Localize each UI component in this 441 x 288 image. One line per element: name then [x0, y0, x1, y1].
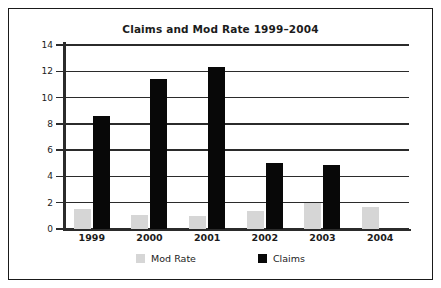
x-axis-tick-label: 1999: [79, 232, 105, 243]
legend-item-mod-rate: Mod Rate: [136, 253, 196, 264]
x-axis-tick-label: 2002: [252, 232, 278, 243]
bar-mod-rate-2000: [131, 215, 148, 229]
y-axis-tick-label: 10: [23, 93, 53, 103]
y-axis-tick: [56, 202, 63, 203]
bar-group: [178, 45, 236, 229]
x-axis-tick-label: 2004: [367, 232, 393, 243]
chart-title: Claims and Mod Rate 1999–2004: [9, 23, 432, 35]
x-axis-line: [63, 229, 411, 231]
y-axis-tick-label: 14: [23, 40, 53, 50]
legend-swatch-claims-icon: [258, 254, 267, 263]
y-axis-tick: [56, 228, 63, 229]
y-axis-tick-label: 12: [23, 66, 53, 76]
y-axis-tick: [56, 44, 63, 45]
x-axis-tick-label: 2001: [194, 232, 220, 243]
y-axis-tick: [56, 149, 63, 150]
bar-mod-rate-2003: [304, 203, 321, 229]
y-axis-tick: [56, 123, 63, 124]
y-axis-tick-label: 4: [23, 171, 53, 181]
bar-group: [236, 45, 294, 229]
bar-claims-2002: [266, 163, 283, 229]
bar-group: [351, 45, 409, 229]
bar-group: [63, 45, 121, 229]
y-axis-tick-label: 2: [23, 198, 53, 208]
y-axis-tick-label: 8: [23, 119, 53, 129]
bar-mod-rate-2004: [362, 207, 379, 229]
y-axis-tick-label: 6: [23, 145, 53, 155]
plot-area: [63, 45, 409, 229]
bar-group: [121, 45, 179, 229]
bar-mod-rate-2001: [189, 216, 206, 229]
bar-group: [294, 45, 352, 229]
chart-figure: Claims and Mod Rate 1999–2004 0246810121…: [8, 8, 433, 280]
legend-item-claims: Claims: [258, 253, 305, 264]
bar-claims-2000: [150, 79, 167, 229]
bar-mod-rate-1999: [74, 209, 91, 229]
x-axis-labels: 199920002001200220032004: [63, 232, 409, 248]
y-axis-labels: 02468101214: [17, 45, 53, 229]
y-axis-tick-label: 0: [23, 224, 53, 234]
y-axis-tick: [56, 176, 63, 177]
bar-claims-2003: [323, 165, 340, 229]
chart-legend: Mod Rate Claims: [9, 253, 432, 264]
x-axis-tick-label: 2000: [136, 232, 162, 243]
legend-label-mod-rate: Mod Rate: [151, 253, 196, 264]
bar-claims-1999: [93, 116, 110, 229]
bar-claims-2001: [208, 67, 225, 229]
y-axis-tick: [56, 71, 63, 72]
y-axis-tick: [56, 97, 63, 98]
x-axis-tick-label: 2003: [309, 232, 335, 243]
bar-mod-rate-2002: [247, 211, 264, 229]
legend-label-claims: Claims: [273, 253, 305, 264]
legend-swatch-mod-rate-icon: [136, 254, 145, 263]
